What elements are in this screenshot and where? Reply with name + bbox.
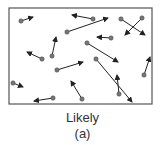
particle bbox=[50, 37, 56, 58]
particle bbox=[19, 17, 33, 23]
particle-diagram bbox=[0, 0, 165, 110]
container-box bbox=[9, 8, 152, 104]
particle-dot-icon bbox=[142, 73, 146, 77]
particle-dot-icon bbox=[55, 68, 59, 72]
particle-dot-icon bbox=[117, 92, 121, 96]
particle-dot-icon bbox=[19, 19, 23, 23]
particle bbox=[142, 57, 150, 77]
velocity-arrow-icon bbox=[96, 59, 132, 102]
velocity-arrow-icon bbox=[52, 37, 56, 56]
particle bbox=[97, 36, 113, 40]
velocity-arrow-icon bbox=[125, 18, 142, 35]
velocity-arrow-icon bbox=[57, 62, 83, 70]
velocity-arrow-icon bbox=[34, 98, 53, 101]
particle bbox=[27, 52, 44, 61]
particle-dot-icon bbox=[119, 17, 123, 21]
figure-sublabel: (a) bbox=[0, 126, 165, 141]
particle bbox=[65, 18, 108, 34]
particle bbox=[71, 81, 84, 101]
velocity-arrow-icon bbox=[87, 43, 118, 62]
particle-dot-icon bbox=[109, 36, 113, 40]
particles-group bbox=[11, 15, 150, 102]
particle-dot-icon bbox=[65, 30, 69, 34]
particle bbox=[117, 75, 121, 96]
particle bbox=[34, 96, 55, 101]
velocity-arrow-icon bbox=[144, 57, 150, 75]
particle-dot-icon bbox=[85, 41, 89, 45]
particle-dot-icon bbox=[51, 96, 55, 100]
particle bbox=[55, 62, 83, 72]
particle bbox=[11, 81, 23, 87]
velocity-arrow-icon bbox=[72, 15, 93, 19]
figure-caption: Likely bbox=[0, 110, 165, 125]
particle bbox=[94, 57, 132, 102]
particle-dot-icon bbox=[94, 57, 98, 61]
particle-dot-icon bbox=[91, 17, 95, 21]
particle-dot-icon bbox=[11, 81, 15, 85]
particle-dot-icon bbox=[40, 57, 44, 61]
particle bbox=[72, 15, 95, 21]
velocity-arrow-icon bbox=[67, 18, 108, 32]
velocity-arrow-icon bbox=[27, 52, 42, 59]
velocity-arrow-icon bbox=[71, 81, 82, 99]
particle bbox=[85, 41, 118, 62]
particle-dot-icon bbox=[50, 54, 54, 58]
particle-dot-icon bbox=[80, 97, 84, 101]
particle-dot-icon bbox=[140, 16, 144, 20]
